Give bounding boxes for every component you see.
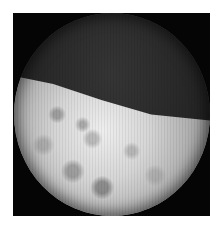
circular-field-of-view xyxy=(14,13,210,216)
edge-vignette xyxy=(14,13,210,216)
image-frame xyxy=(13,13,210,216)
